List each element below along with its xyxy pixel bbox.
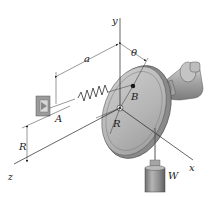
label-x-axis: x [189, 162, 195, 173]
label-radius-offset: R [18, 141, 27, 152]
spring-disk-diagram: y x z a θ A B R R W [0, 0, 209, 197]
label-point-b: B [130, 91, 138, 102]
label-z-axis: z [7, 172, 13, 182]
wall-bracket [36, 96, 50, 116]
label-weight: W [168, 170, 179, 181]
label-radius-disk: R [112, 118, 121, 129]
label-dim-a: a [84, 53, 90, 64]
label-y-axis: y [111, 15, 118, 26]
disk [90, 56, 183, 168]
label-theta: θ [131, 47, 137, 58]
label-point-a: A [54, 113, 62, 124]
